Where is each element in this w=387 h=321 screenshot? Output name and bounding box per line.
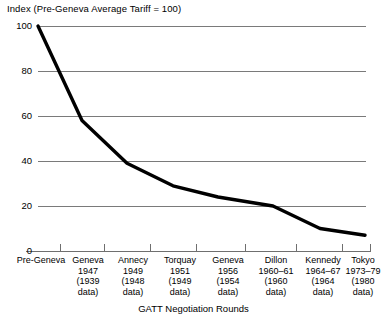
category-year: 1973–79 — [340, 266, 386, 277]
y-axis-label-80: 80 — [4, 65, 32, 76]
category-name: Geneva — [202, 255, 254, 266]
category-year: 1951 — [154, 266, 206, 277]
tariff-index-series-line — [38, 26, 365, 235]
category-data-close: data) — [154, 287, 206, 298]
x-axis-category-torquay-1951: Torquay 1951 (1949 data) — [154, 255, 206, 297]
category-year: 1956 — [202, 266, 254, 277]
category-data-open: (1948 — [108, 276, 158, 287]
category-data-open: (1939 — [62, 276, 114, 287]
tariff-index-line-chart: Index (Pre-Geneva Average Tariff = 100) … — [0, 0, 387, 321]
category-name: Dillon — [249, 255, 303, 266]
x-axis-ticks — [61, 244, 371, 251]
category-data-open: (1980 — [340, 276, 386, 287]
y-axis-label-40: 40 — [4, 155, 32, 166]
x-axis-category-geneva-1947: Geneva 1947 (1939 data) — [62, 255, 114, 297]
category-data-close: data) — [249, 287, 303, 298]
category-year: 1947 — [62, 266, 114, 277]
x-axis-caption: GATT Negotiation Rounds — [0, 303, 387, 314]
y-axis-label-60: 60 — [4, 110, 32, 121]
category-data-open: (1960 — [249, 276, 303, 287]
category-data-close: data) — [202, 287, 254, 298]
category-data-close: data) — [340, 287, 386, 298]
gridlines — [38, 27, 366, 207]
y-axis-label-20: 20 — [4, 200, 32, 211]
category-name: Torquay — [154, 255, 206, 266]
x-axis-category-annecy-1949: Annecy 1949 (1948 data) — [108, 255, 158, 297]
x-axis-category-geneva-1956: Geneva 1956 (1954 data) — [202, 255, 254, 297]
category-name: Annecy — [108, 255, 158, 266]
category-year: 1960–61 — [249, 266, 303, 277]
x-axis-category-dillon-1960-61: Dillon 1960–61 (1960 data) — [249, 255, 303, 297]
category-data-open: (1954 — [202, 276, 254, 287]
category-data-close: data) — [62, 287, 114, 298]
category-data-close: data) — [108, 287, 158, 298]
category-year: 1949 — [108, 266, 158, 277]
y-axis-label-100: 100 — [4, 20, 32, 31]
x-axis-category-tokyo-1973-79: Tokyo 1973–79 (1980 data) — [340, 255, 386, 297]
category-data-open: (1949 — [154, 276, 206, 287]
category-name: Geneva — [62, 255, 114, 266]
category-name: Tokyo — [340, 255, 386, 266]
